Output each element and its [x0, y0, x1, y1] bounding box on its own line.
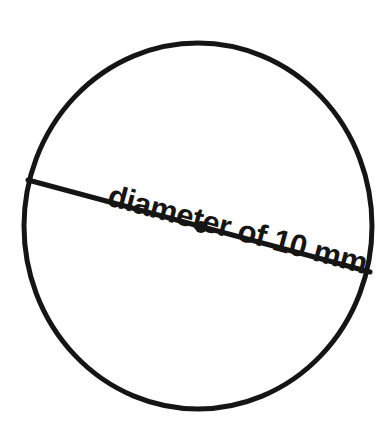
circle-diagram-canvas: diameter of 10 mm: [0, 0, 392, 422]
circle-diameter-figure: diameter of 10 mm: [0, 0, 392, 422]
